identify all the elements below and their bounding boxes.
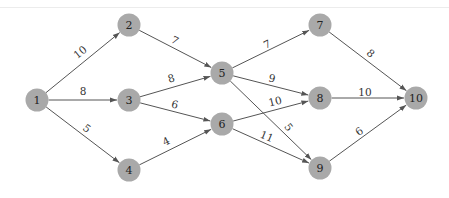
node-label: 8	[317, 92, 324, 105]
node-3: 3	[118, 89, 141, 112]
arrow-line	[46, 33, 120, 93]
arrow-line	[46, 107, 119, 163]
edge-weight-label: 6	[170, 97, 180, 110]
edge-4-to-6	[139, 129, 211, 165]
edges-layer	[46, 30, 407, 165]
edge-5-to-7	[232, 30, 309, 68]
node-label: 9	[317, 162, 324, 175]
edge-1-to-2	[46, 33, 120, 93]
node-label: 1	[34, 94, 41, 107]
node-7: 7	[309, 14, 332, 37]
edge-9-to-10	[329, 105, 406, 161]
edge-weight-label: 4	[160, 134, 172, 148]
node-label: 5	[219, 67, 226, 80]
arrow-line	[329, 32, 406, 91]
node-label: 3	[126, 94, 133, 107]
node-label: 4	[126, 164, 133, 177]
edge-weight-label: 8	[166, 71, 176, 84]
arrow-line	[232, 30, 309, 68]
node-5: 5	[211, 62, 234, 85]
arrow-line	[329, 105, 406, 161]
edge-1-to-4	[46, 107, 119, 163]
node-10: 10	[405, 87, 428, 110]
node-4: 4	[118, 159, 141, 182]
node-8: 8	[309, 87, 332, 110]
node-label: 7	[317, 19, 324, 32]
edge-weight-label: 10	[71, 43, 89, 61]
edge-weight-label: 5	[282, 121, 296, 134]
node-2: 2	[118, 14, 141, 37]
edge-weight-label: 10	[358, 86, 371, 98]
edge-weight-label: 5	[81, 121, 94, 135]
arrow-line	[140, 76, 210, 96]
node-label: 10	[409, 92, 423, 105]
node-9: 9	[309, 157, 332, 180]
edge-weight-label: 8	[365, 46, 378, 59]
network-diagram: 1085786479510118106 12345678910	[0, 0, 449, 198]
node-label: 2	[126, 19, 133, 32]
node-1: 1	[26, 89, 49, 112]
edge-3-to-5	[140, 76, 210, 96]
edge-weight-label: 7	[262, 37, 273, 51]
edge-7-to-10	[329, 32, 406, 91]
edge-weight-label: 10	[267, 94, 283, 109]
edge-weight-label: 8	[80, 85, 87, 97]
node-label: 6	[219, 118, 226, 131]
arrow-line	[139, 129, 211, 165]
edge-weight-label: 7	[169, 33, 181, 47]
edge-weight-label: 9	[267, 71, 276, 84]
node-6: 6	[211, 113, 234, 136]
